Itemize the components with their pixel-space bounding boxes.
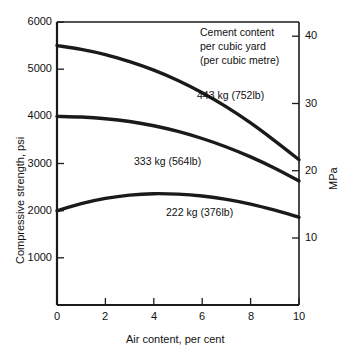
y2-tick-10: 10	[305, 232, 317, 243]
right-axis-title: MPa	[327, 167, 339, 190]
series-label-443kg: 443 kg (752lb)	[197, 89, 264, 101]
series-label-333kg: 333 kg (564lb)	[134, 155, 201, 167]
x-tick-8: 8	[239, 311, 263, 322]
x-tick-2: 2	[93, 311, 117, 322]
x-tick-10: 10	[287, 311, 311, 322]
x-tick-6: 6	[190, 311, 214, 322]
y-axis-title: Compressive strength, psi	[14, 137, 26, 264]
y2-tick-20: 20	[305, 165, 317, 176]
y2-tick-30: 30	[305, 98, 317, 109]
right-axis-ticks	[292, 36, 299, 238]
series-curves	[57, 46, 299, 218]
y2-tick-40: 40	[305, 30, 317, 41]
x-tick-4: 4	[142, 311, 166, 322]
cement-content-heading-line3: (per cubic metre)	[200, 54, 279, 67]
series-label-222kg: 222 kg (376lb)	[166, 206, 233, 218]
chart-figure: 6000 5000 4000 3000 2000 1000 40 30 20 1…	[0, 0, 341, 355]
series-curve-333kg	[57, 116, 299, 181]
y-tick-4000: 4000	[12, 110, 52, 121]
x-tick-0: 0	[45, 311, 69, 322]
x-axis-title: Air content, per cent	[126, 333, 224, 345]
y-tick-6000: 6000	[12, 16, 52, 27]
cement-content-heading-line1: Cement content	[200, 26, 274, 39]
y-tick-5000: 5000	[12, 63, 52, 74]
cement-content-heading-line2: per cubic yard	[200, 40, 266, 53]
chart-plot-area	[0, 0, 341, 355]
